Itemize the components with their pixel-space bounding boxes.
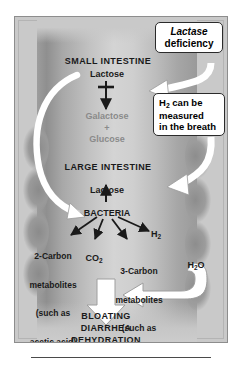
breath-test-line-1: H2 can be — [159, 97, 219, 110]
lactase-deficiency-line-1: Lactase — [161, 26, 217, 38]
large-intestine-lactose-label: Lactose — [77, 185, 137, 195]
haustra-bulge-right-2 — [185, 177, 211, 223]
breath-test-line-2: measured — [159, 110, 219, 121]
breath-test-line-1-rest: can be — [170, 97, 203, 108]
glucose-label: Glucose — [71, 134, 143, 144]
outcome-diarrhea: DIARRHEA — [48, 323, 164, 333]
outcome-bloating: BLOATING — [48, 311, 164, 321]
haustra-bulge-left-1 — [23, 125, 49, 171]
product-plus-sign: + — [71, 123, 143, 133]
bacteria-label: BACTERIA — [75, 208, 139, 218]
breath-test-line-3: in the breath — [159, 121, 219, 132]
galactose-label: Galactose — [71, 111, 143, 121]
three-carbon-line-2: metabolites — [101, 296, 177, 306]
hydrogen-gas-subscript: 2 — [157, 233, 161, 240]
breath-test-h: H — [159, 97, 166, 108]
two-carbon-line-2: metabolites — [17, 281, 89, 291]
small-intestine-heading: SMALL INTESTINE — [58, 56, 158, 66]
figure-root: SMALL INTESTINE Lactose Galactose + Gluc… — [0, 0, 243, 371]
large-intestine-heading: LARGE INTESTINE — [56, 162, 160, 172]
small-intestine-lactose-label: Lactose — [77, 69, 137, 79]
water-label: H2O — [178, 260, 214, 271]
lactase-deficiency-callout[interactable]: Lactase deficiency — [155, 22, 223, 53]
breath-test-callout[interactable]: H2 can be measured in the breath — [153, 93, 225, 136]
water-formula-suffix: O — [198, 260, 205, 270]
three-carbon-line-1: 3-Carbon — [101, 267, 177, 277]
caption-divider-rule — [31, 357, 211, 358]
haustra-bulge-right-1 — [185, 133, 211, 179]
outcome-dehydration: DEHYDRATION — [48, 335, 164, 343]
haustra-bulge-right-4 — [185, 265, 211, 311]
lactase-deficiency-line-2: deficiency — [161, 38, 217, 50]
hydrogen-gas-label: H2 — [139, 229, 173, 240]
carbon-dioxide-formula: CO — [85, 253, 99, 263]
diagram-panel: SMALL INTESTINE Lactose Galactose + Gluc… — [14, 16, 228, 343]
haustra-bulge-left-2 — [23, 167, 49, 213]
